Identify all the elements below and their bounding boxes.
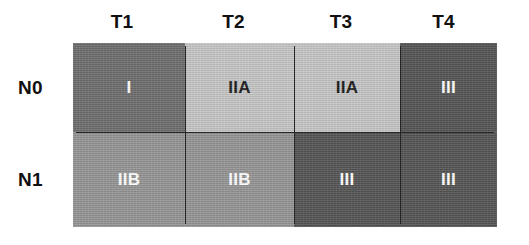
grid-cell-label: III <box>441 78 456 98</box>
grid-cell-label: III <box>339 170 354 190</box>
staging-matrix-figure: T1 T2 T3 T4 N0 N1 I IIA IIA III IIB IIB <box>0 0 529 245</box>
grid-vertical-line <box>294 46 295 224</box>
grid-cell-label: IIB <box>118 170 141 190</box>
grid-cell-n0-t4: III <box>400 43 497 132</box>
texture-overlay <box>294 43 400 132</box>
grid-vertical-line <box>400 46 401 224</box>
grid-cell-n0-t1: I <box>73 43 185 132</box>
texture-overlay <box>400 43 497 132</box>
column-header-t1: T1 <box>82 9 162 35</box>
grid-cell-n1-t4: III <box>400 132 497 227</box>
texture-overlay <box>73 132 185 227</box>
texture-overlay <box>185 43 294 132</box>
column-header-t3: T3 <box>301 9 381 35</box>
grid-vertical-line <box>185 46 186 224</box>
texture-overlay <box>294 132 400 227</box>
grid-cell-n1-t1: IIB <box>73 132 185 227</box>
grid-cell-n1-t2: IIB <box>185 132 294 227</box>
grid-cell-label: IIB <box>228 170 251 190</box>
column-header-t4: T4 <box>404 9 484 35</box>
staging-grid: I IIA IIA III IIB IIB III III <box>73 43 497 227</box>
grid-cell-label: III <box>441 170 456 190</box>
texture-overlay <box>185 132 294 227</box>
grid-cell-n1-t3: III <box>294 132 400 227</box>
grid-cell-label: IIA <box>336 78 359 98</box>
grid-cell-label: IIA <box>228 78 251 98</box>
column-header-t2: T2 <box>194 9 274 35</box>
texture-overlay <box>73 43 185 132</box>
grid-horizontal-line <box>76 132 494 133</box>
row-header-n0: N0 <box>18 76 68 100</box>
row-header-n1: N1 <box>18 168 68 192</box>
texture-overlay <box>400 132 497 227</box>
grid-cell-label: I <box>126 78 131 98</box>
grid-cell-n0-t2: IIA <box>185 43 294 132</box>
grid-cell-n0-t3: IIA <box>294 43 400 132</box>
